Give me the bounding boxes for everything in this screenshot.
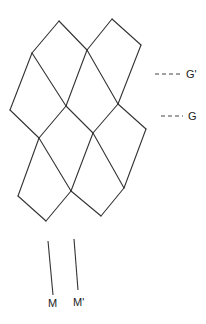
- tiling-edge: [71, 191, 101, 216]
- m-prime-label: M': [73, 296, 84, 308]
- m-axis-line: [48, 241, 53, 295]
- tiling-edge: [118, 104, 146, 129]
- tiling-edge: [59, 21, 87, 50]
- tiling-edge: [101, 188, 124, 216]
- tiling-edge: [18, 138, 39, 196]
- tiling-edge: [32, 53, 66, 106]
- tiling-edge: [93, 104, 118, 133]
- tiling-edge: [87, 50, 118, 104]
- tiling-edge: [32, 21, 59, 53]
- tiling-edge: [87, 19, 112, 50]
- m-label: M: [48, 297, 57, 309]
- g-label: G: [188, 110, 197, 122]
- tiling-edge: [66, 50, 87, 106]
- tiling-edge: [112, 19, 141, 45]
- tiling-edge: [124, 129, 146, 188]
- tiling-edge: [118, 45, 141, 104]
- tiling-edge: [93, 133, 124, 188]
- tiling-edge: [39, 138, 71, 191]
- tiling-edge: [10, 110, 39, 138]
- tiling-edge: [18, 196, 46, 221]
- g-prime-label: G': [186, 68, 197, 80]
- m-prime-axis-line: [74, 239, 78, 290]
- tiling-edge: [10, 53, 32, 110]
- tiling-edges: [10, 19, 146, 221]
- tiling-edge: [71, 133, 93, 191]
- tiling-edge: [66, 106, 93, 133]
- tiling-edge: [39, 106, 66, 138]
- tiling-diagram: G' G M M': [0, 0, 206, 324]
- tiling-edge: [46, 191, 71, 221]
